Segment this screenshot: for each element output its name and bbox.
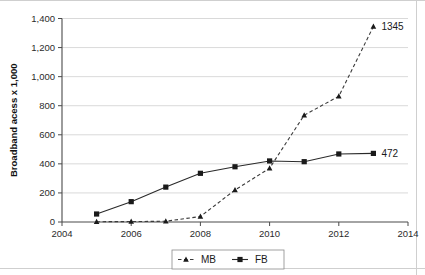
- legend-label-MB: MB: [201, 254, 216, 265]
- y-tick-label-1400: 1,400: [31, 13, 55, 24]
- y-tick-label-1000: 1,000: [31, 71, 55, 82]
- data-point-MB-2008: [198, 213, 204, 218]
- y-tick-label-400: 400: [39, 158, 55, 169]
- data-point-MB-2011: [301, 112, 307, 117]
- data-point-MB-2012: [336, 93, 342, 98]
- data-label-FB-472: 472: [381, 148, 398, 159]
- series-line-FB: [97, 153, 374, 214]
- y-tick-label-800: 800: [39, 100, 55, 111]
- data-point-MB-2009: [232, 187, 238, 192]
- data-point-MB-2010: [267, 165, 273, 170]
- data-point-FB-2005: [94, 211, 99, 216]
- line-chart-canvas: 02004006008001,0001,2001,400200420062008…: [0, 0, 425, 275]
- data-point-FB-2012: [336, 151, 341, 156]
- data-point-FB-2013: [371, 151, 376, 156]
- data-point-FB-2008: [198, 171, 203, 176]
- y-tick-label-1200: 1,200: [31, 42, 55, 53]
- x-tick-label-2004: 2004: [51, 228, 72, 239]
- y-axis-title: Broadband acess x 1,000: [8, 63, 19, 177]
- y-tick-label-0: 0: [50, 216, 55, 227]
- chart-figure: 02004006008001,0001,2001,400200420062008…: [0, 0, 425, 275]
- data-point-FB-2006: [129, 199, 134, 204]
- y-tick-label-600: 600: [39, 129, 55, 140]
- y-tick-label-200: 200: [39, 187, 55, 198]
- data-label-MB-1345: 1345: [381, 21, 404, 32]
- x-tick-label-2014: 2014: [397, 228, 418, 239]
- data-point-FB-2009: [232, 164, 237, 169]
- data-point-FB-2011: [302, 159, 307, 164]
- legend-square-marker-FB: [237, 257, 242, 262]
- x-tick-label-2012: 2012: [328, 228, 349, 239]
- series-line-MB: [97, 26, 374, 221]
- x-tick-label-2008: 2008: [190, 228, 211, 239]
- x-tick-label-2010: 2010: [259, 228, 280, 239]
- data-point-FB-2010: [267, 158, 272, 163]
- legend-label-FB: FB: [255, 254, 268, 265]
- data-point-FB-2007: [163, 185, 168, 190]
- x-tick-label-2006: 2006: [121, 228, 142, 239]
- data-point-MB-2013: [371, 23, 377, 28]
